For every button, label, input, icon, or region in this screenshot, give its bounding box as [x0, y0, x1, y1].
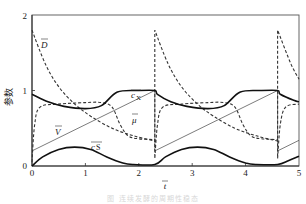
svg-text:c: c — [91, 142, 95, 152]
x-axis-label: t — [162, 181, 168, 191]
curves-group — [32, 30, 299, 166]
x-tick-4: 4 — [243, 168, 248, 178]
x-tick-5: 5 — [297, 168, 302, 178]
label-cx: c X — [131, 90, 141, 102]
svg-text:X: X — [136, 94, 141, 102]
series-mu-line — [32, 102, 299, 162]
y-tick-2: 2 — [23, 11, 28, 21]
y-tick-1: 1 — [23, 86, 28, 96]
y-tick-0: 0 — [23, 161, 28, 171]
svg-text:t: t — [164, 181, 167, 191]
x-tick-2: 2 — [137, 168, 142, 178]
figure-caption: 图 连续发酵的周期性稳态 — [0, 193, 306, 203]
label-V: V — [55, 126, 62, 137]
label-mu: μ — [131, 114, 138, 125]
x-tick-1: 1 — [83, 168, 88, 178]
label-cs: c S — [91, 142, 102, 152]
label-D: D — [40, 39, 48, 50]
svg-text:D: D — [40, 40, 48, 50]
x-tick-3: 3 — [190, 168, 195, 178]
svg-text:V: V — [55, 127, 62, 137]
y-axis-label: 参数 — [3, 88, 14, 106]
chart-canvas: 0 1 2 0 1 2 3 4 5 t 参数 D c X μ V c S — [0, 0, 306, 204]
series-cs-line — [32, 147, 299, 166]
svg-text:μ: μ — [131, 115, 137, 125]
x-tick-0: 0 — [30, 168, 35, 178]
svg-text:S: S — [96, 143, 100, 152]
series-D-line — [32, 30, 299, 141]
svg-text:c: c — [131, 90, 135, 100]
